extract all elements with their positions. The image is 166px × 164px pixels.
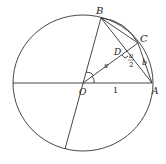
- geometry-diagram: B C D O A 1 s a 2 b: [0, 0, 166, 164]
- label-a: A: [151, 86, 159, 96]
- label-od-s: s: [104, 61, 108, 70]
- label-da-numerator: a: [129, 52, 133, 60]
- diagram-canvas: B C D O A 1 s a 2 b: [0, 0, 166, 164]
- label-oa-length: 1: [113, 86, 118, 95]
- label-b: B: [95, 5, 103, 16]
- label-da-denominator: 2: [129, 61, 133, 69]
- label-ca-b: b: [142, 58, 147, 67]
- label-c: C: [140, 33, 148, 44]
- right-angle-mark: [122, 55, 128, 58]
- label-o: O: [79, 87, 87, 97]
- chord-bc: [101, 18, 138, 43]
- label-d: D: [113, 47, 121, 57]
- diameter-bo: [65, 18, 101, 149]
- angle-arc-small: [92, 76, 94, 83]
